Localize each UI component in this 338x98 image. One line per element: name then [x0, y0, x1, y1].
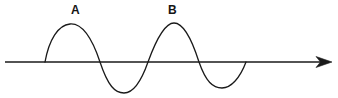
crest-label-b: B — [168, 4, 177, 16]
sine-wave-curve — [45, 23, 246, 93]
crest-label-a: A — [71, 4, 80, 16]
wave-diagram-figure: A B — [0, 0, 338, 98]
